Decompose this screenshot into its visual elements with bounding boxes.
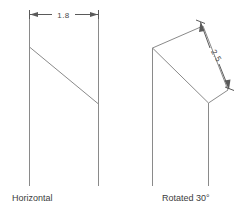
panel-rotated: 2.5 Rotated 30° — [153, 20, 235, 203]
horizontal-diagonal-edge — [30, 47, 99, 104]
technical-drawing: 1.8 Horizontal 2.5 Rotated 30° — [0, 0, 246, 211]
diagram-canvas: 1.8 Horizontal 2.5 Rotated 30° — [0, 0, 246, 211]
arrowhead-right-icon — [90, 12, 98, 17]
panel-horizontal: 1.8 Horizontal — [12, 10, 99, 203]
horizontal-dimension: 1.8 — [30, 10, 99, 20]
rotated-witness-lower — [225, 87, 234, 91]
caption-rotated: Rotated 30° — [162, 193, 210, 203]
rotated-dimension: 2.5 — [196, 20, 234, 91]
arrowhead-left-icon — [30, 12, 38, 17]
rotated-quad-outline — [153, 26, 229, 103]
caption-horizontal: Horizontal — [12, 193, 53, 203]
rotated-dimension-value: 2.5 — [209, 48, 223, 63]
horizontal-dimension-value: 1.8 — [57, 11, 70, 20]
